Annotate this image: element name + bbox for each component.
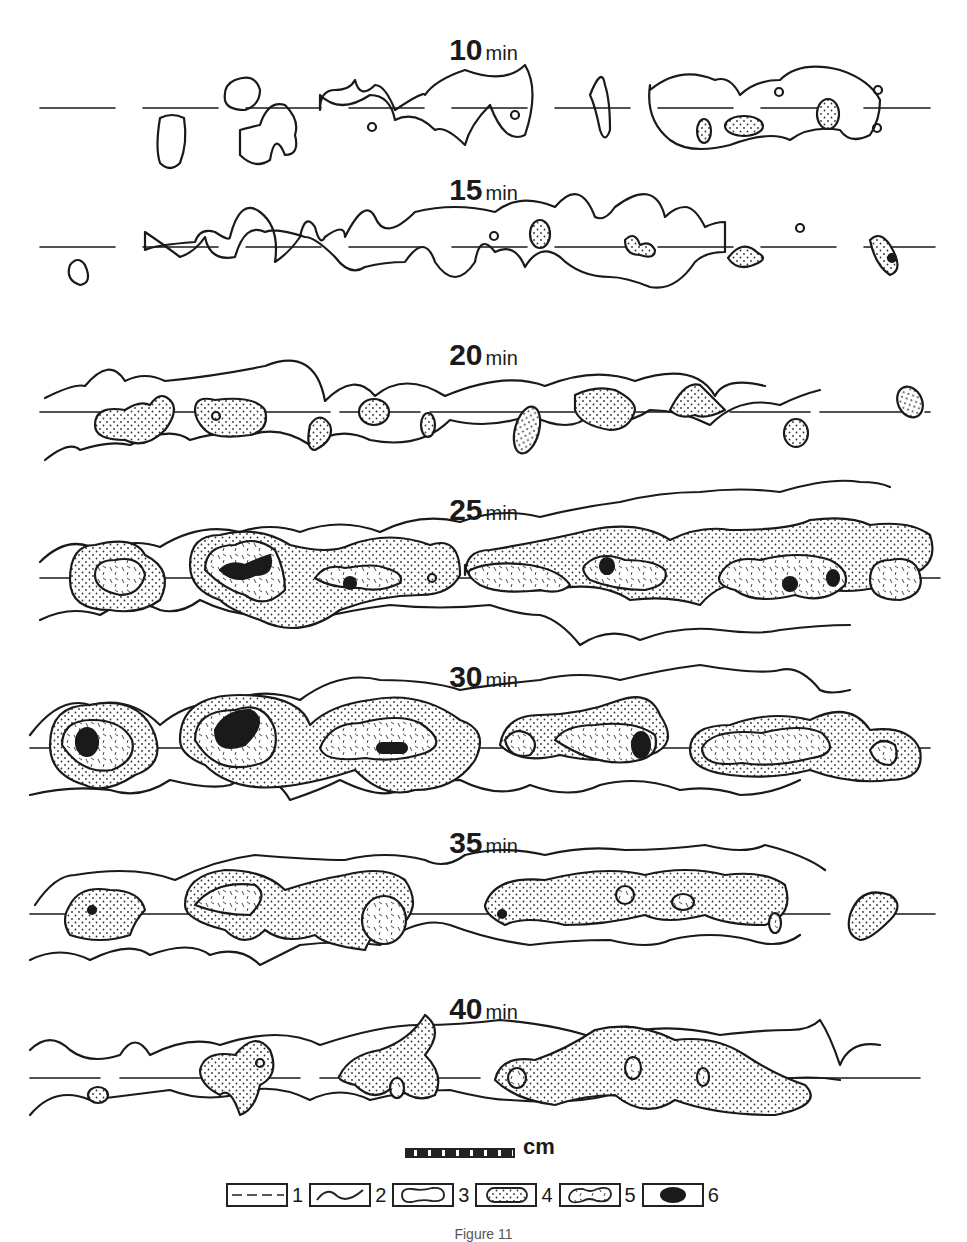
time-value: 25 <box>449 493 482 526</box>
time-value: 30 <box>449 660 482 693</box>
panel-10min-drawing <box>40 65 930 168</box>
time-value: 40 <box>449 992 482 1025</box>
panel-35min-drawing <box>30 845 935 965</box>
legend-item-3: 3 <box>392 1183 469 1207</box>
time-unit: min <box>486 347 518 369</box>
time-unit: min <box>486 502 518 524</box>
panel-title-15min: 15min <box>0 173 967 207</box>
legend: 1 2 3 4 5 6 <box>226 1183 721 1207</box>
time-value: 35 <box>449 826 482 859</box>
time-unit: min <box>486 669 518 691</box>
time-value: 10 <box>449 33 482 66</box>
time-unit: min <box>486 835 518 857</box>
scale-bar-label: cm <box>523 1134 555 1160</box>
time-unit: min <box>486 1001 518 1023</box>
time-unit: min <box>486 42 518 64</box>
panel-40min-drawing <box>30 1015 935 1115</box>
legend-item-2: 2 <box>309 1183 386 1207</box>
solid-black-blob-icon <box>642 1183 704 1207</box>
dashed-line-icon <box>226 1183 288 1207</box>
legend-number: 6 <box>708 1184 719 1207</box>
panel-title-20min: 20min <box>0 338 967 372</box>
legend-number: 5 <box>625 1184 636 1207</box>
time-value: 15 <box>449 173 482 206</box>
dotted-blob-icon <box>475 1183 537 1207</box>
scale-bar-graphic <box>405 1148 515 1158</box>
wavy-line-icon <box>309 1183 371 1207</box>
time-unit: min <box>486 182 518 204</box>
legend-number: 2 <box>375 1184 386 1207</box>
hatched-blob-icon <box>559 1183 621 1207</box>
panel-title-30min: 30min <box>0 660 967 694</box>
figure-caption: Figure 11 <box>0 1226 967 1242</box>
panel-title-40min: 40min <box>0 992 967 1026</box>
legend-item-1: 1 <box>226 1183 303 1207</box>
panel-title-10min: 10min <box>0 33 967 67</box>
legend-number: 1 <box>292 1184 303 1207</box>
legend-item-4: 4 <box>475 1183 552 1207</box>
panel-title-25min: 25min <box>0 493 967 527</box>
panel-title-35min: 35min <box>0 826 967 860</box>
panel-15min-drawing <box>40 194 935 288</box>
legend-item-5: 5 <box>559 1183 636 1207</box>
time-value: 20 <box>449 338 482 371</box>
legend-item-6: 6 <box>642 1183 719 1207</box>
legend-number: 3 <box>458 1184 469 1207</box>
outlined-blob-icon <box>392 1183 454 1207</box>
panel-20min-drawing <box>40 361 930 460</box>
legend-number: 4 <box>541 1184 552 1207</box>
